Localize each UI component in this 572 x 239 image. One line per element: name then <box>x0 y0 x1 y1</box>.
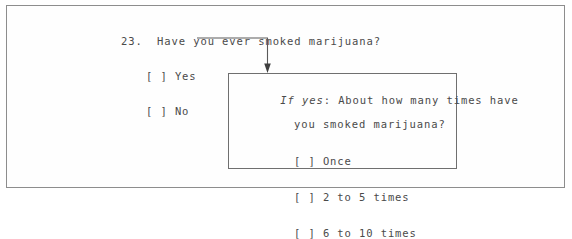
figure-outer-frame: 23. Have you ever smoked marijuana? [ ] … <box>6 5 565 188</box>
elbow-arrow-icon <box>197 32 277 76</box>
sub-option-2-to-5[interactable]: [ ] 2 to 5 times <box>294 191 519 195</box>
subquestion-prompt-part2: you smoked marijuana? <box>294 118 519 130</box>
sub-option-once[interactable]: [ ] Once <box>294 155 519 167</box>
subquestion-line-1: If yes: About how many times have <box>280 94 518 106</box>
subquestion-text: If yes: About how many times have you sm… <box>237 82 519 195</box>
if-yes-colon: : <box>324 94 331 106</box>
subquestion-prompt-part1: About how many times have <box>331 94 519 106</box>
subquestion-box: If yes: About how many times have you sm… <box>228 73 457 169</box>
if-yes-label: If yes <box>280 94 323 106</box>
